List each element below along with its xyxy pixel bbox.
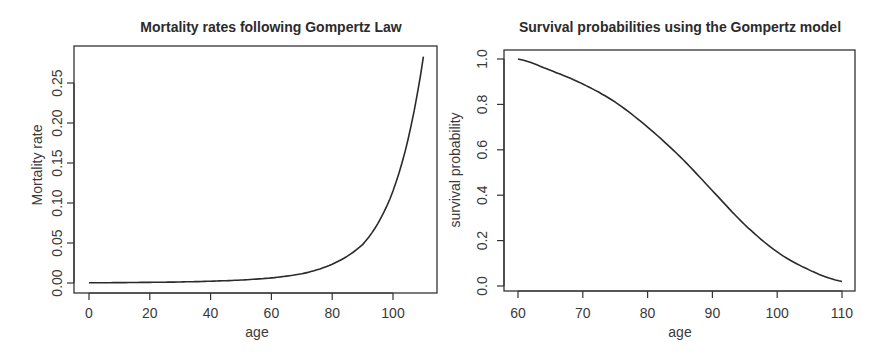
x-tick-label: 60 xyxy=(264,305,280,321)
x-tick-label: 80 xyxy=(324,305,340,321)
y-tick-label: 0.20 xyxy=(49,109,65,136)
y-tick-label: 1.0 xyxy=(474,49,490,69)
mortality-curve xyxy=(89,57,423,283)
x-tick-label: 60 xyxy=(510,305,526,321)
y-tick-label: 0.15 xyxy=(49,149,65,176)
x-axis-label: age xyxy=(245,324,269,340)
y-tick-label: 0.2 xyxy=(474,231,490,251)
chart-survival: Survival probabilities using the Gompert… xyxy=(447,19,855,340)
x-tick-label: 100 xyxy=(766,305,790,321)
y-tick-label: 0.10 xyxy=(49,189,65,216)
x-tick-label: 80 xyxy=(640,305,656,321)
x-axis-label: age xyxy=(668,324,692,340)
x-tick-label: 40 xyxy=(203,305,219,321)
plot-frame xyxy=(74,46,437,293)
x-axis-ticks: 020406080100 xyxy=(85,293,405,321)
survival-curve xyxy=(518,59,842,282)
y-tick-label: 0.05 xyxy=(49,229,65,256)
x-axis-ticks: 60708090100110 xyxy=(510,291,853,321)
y-axis-ticks: 0.000.050.100.150.200.25 xyxy=(49,69,74,296)
y-tick-label: 0.25 xyxy=(49,69,65,96)
x-tick-label: 90 xyxy=(705,305,721,321)
x-tick-label: 110 xyxy=(831,305,854,321)
chart-mortality: Mortality rates following Gompertz Law 0… xyxy=(29,19,437,340)
figure: Mortality rates following Gompertz Law 0… xyxy=(0,0,886,356)
y-tick-label: 0.00 xyxy=(49,269,65,296)
y-tick-label: 0.0 xyxy=(474,276,490,296)
y-tick-label: 0.4 xyxy=(474,185,490,205)
chart-title: Mortality rates following Gompertz Law xyxy=(140,19,401,35)
y-axis-ticks: 0.00.20.40.60.81.0 xyxy=(474,49,504,296)
y-axis-label: survival probability xyxy=(447,112,463,227)
x-tick-label: 100 xyxy=(381,305,405,321)
y-axis-label: Mortality rate xyxy=(29,124,45,205)
chart-title: Survival probabilities using the Gompert… xyxy=(519,19,841,35)
x-tick-label: 70 xyxy=(575,305,591,321)
x-tick-label: 20 xyxy=(142,305,158,321)
y-tick-label: 0.6 xyxy=(474,140,490,160)
y-tick-label: 0.8 xyxy=(474,94,490,114)
plot-frame xyxy=(504,50,855,291)
x-tick-label: 0 xyxy=(85,305,93,321)
